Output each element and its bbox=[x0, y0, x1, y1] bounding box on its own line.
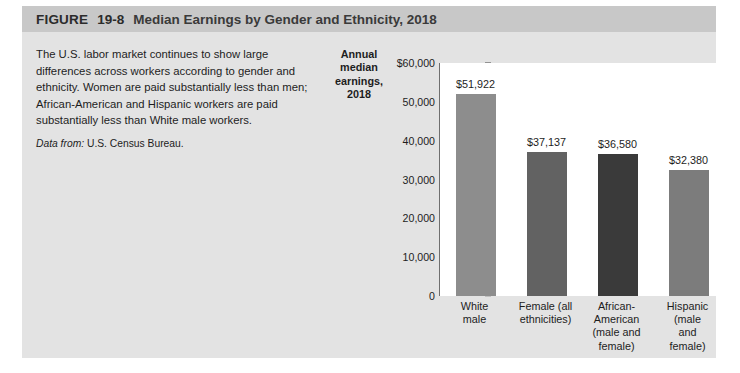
x-axis-category-label: Hispanic(male andfemale) bbox=[667, 300, 708, 353]
y-axis-tick-label: 10,000 bbox=[403, 251, 435, 263]
bar-value-label: $32,380 bbox=[669, 154, 708, 166]
caption-source-label: Data from: bbox=[36, 138, 84, 149]
caption-text: The U.S. labor market continues to show … bbox=[36, 46, 324, 129]
bar bbox=[669, 170, 709, 296]
x-axis-category-label: African-American(male andfemale) bbox=[592, 300, 640, 353]
bar-value-label: $37,137 bbox=[527, 136, 566, 148]
figure-number: 19-8 bbox=[97, 12, 124, 27]
caption-source: Data from: U.S. Census Bureau. bbox=[36, 138, 324, 149]
bar bbox=[598, 154, 638, 296]
bar-value-label: $51,922 bbox=[456, 78, 495, 90]
y-axis-tick-label: $60,000 bbox=[397, 57, 435, 69]
caption-source-text: U.S. Census Bureau. bbox=[84, 138, 184, 149]
y-axis-tick-label: 20,000 bbox=[403, 212, 435, 224]
y-axis-tick-label: 30,000 bbox=[403, 174, 435, 186]
figure-title: Median Earnings by Gender and Ethnicity,… bbox=[133, 12, 437, 27]
bar bbox=[527, 152, 567, 296]
figure-panel: FIGURE 19-8 Median Earnings by Gender an… bbox=[22, 6, 716, 358]
x-axis-category-labels: WhitemaleFemale (allethnicities)African-… bbox=[439, 300, 723, 358]
x-axis-category-label: Female (allethnicities) bbox=[519, 300, 572, 326]
bar-value-label: $36,580 bbox=[598, 138, 637, 150]
y-axis-tick-label: 0 bbox=[429, 290, 435, 302]
bar-chart: Annual median earnings, 2018 $60,00050,0… bbox=[325, 32, 716, 358]
caption-block: The U.S. labor market continues to show … bbox=[36, 46, 324, 149]
plot-area: $51,922$37,137$36,580$32,380 bbox=[439, 63, 723, 296]
figure-body: The U.S. labor market continues to show … bbox=[22, 32, 716, 358]
bar bbox=[456, 94, 496, 296]
x-axis-category-label: Whitemale bbox=[461, 300, 489, 326]
y-axis-tick-label: 40,000 bbox=[403, 135, 435, 147]
figure-label: FIGURE bbox=[36, 12, 88, 27]
y-axis-tick-labels: $60,00050,00040,00030,00020,00010,0000 bbox=[377, 63, 435, 296]
y-axis-tick-label: 50,000 bbox=[403, 96, 435, 108]
figure-header: FIGURE 19-8 Median Earnings by Gender an… bbox=[22, 6, 716, 32]
